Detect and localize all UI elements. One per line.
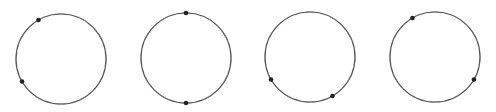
circle-1	[16, 14, 106, 104]
tick-mark	[223, 32, 227, 39]
tick-mark	[80, 18, 87, 22]
circle-2	[141, 11, 231, 106]
tick-mark	[98, 33, 102, 40]
tick-mark	[160, 95, 167, 99]
tick-mark	[269, 31, 273, 38]
circles-diagram	[0, 0, 496, 112]
tick-mark	[284, 16, 291, 20]
marked-dot	[330, 94, 335, 99]
tick-mark	[80, 96, 87, 100]
circle-4	[390, 12, 480, 102]
tick-mark	[394, 76, 398, 83]
circle-3	[265, 12, 355, 102]
tick-mark	[145, 32, 149, 39]
tick-mark	[409, 94, 416, 98]
marked-dot	[36, 18, 41, 23]
circle-outline	[265, 12, 355, 102]
tick-mark	[20, 33, 24, 40]
circle-outline	[141, 13, 231, 103]
tick-mark	[160, 17, 167, 21]
tick-mark	[284, 94, 291, 98]
tick-mark	[454, 16, 461, 20]
marked-dot	[269, 77, 274, 82]
circle-outline	[390, 12, 480, 102]
marked-dot	[20, 79, 25, 84]
tick-mark	[454, 94, 461, 98]
tick-mark	[394, 31, 398, 38]
marked-dot	[184, 11, 189, 16]
tick-mark	[329, 16, 336, 20]
diagram-canvas	[0, 0, 496, 112]
tick-mark	[223, 77, 227, 84]
tick-mark	[145, 77, 149, 84]
tick-mark	[347, 76, 351, 83]
tick-mark	[35, 96, 42, 100]
tick-mark	[205, 95, 212, 99]
tick-mark	[205, 17, 212, 21]
marked-dot	[410, 16, 415, 21]
tick-mark	[347, 31, 351, 38]
tick-mark	[98, 78, 102, 85]
marked-dot	[184, 101, 189, 106]
circle-outline	[16, 14, 106, 104]
marked-dot	[472, 77, 477, 82]
tick-mark	[472, 31, 476, 38]
